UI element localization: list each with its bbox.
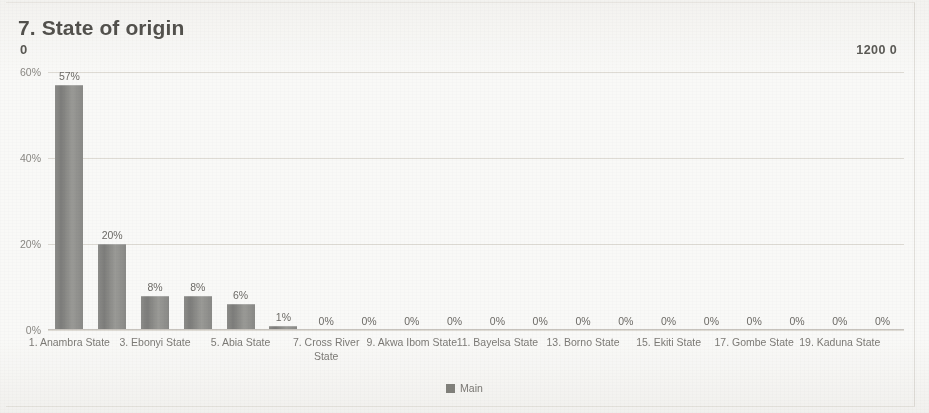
bar-value-label: 57% [59, 70, 80, 82]
plot-area: 0%20%40%60% 57%20%8%8%6%1%0%0%0%0%0%0%0%… [48, 72, 904, 330]
bar-chart: 7. State of origin 0 1200 0 0%20%40%60% … [0, 0, 929, 413]
bar-value-label: 0% [447, 315, 462, 327]
x-axis-tick-label: 17. Gombe State [708, 336, 800, 350]
bar-slot: 20% [91, 72, 134, 330]
bar-value-label: 0% [319, 315, 334, 327]
bar-slot: 0% [305, 72, 348, 330]
bar-value-label: 20% [102, 229, 123, 241]
bar-value-label: 8% [147, 281, 162, 293]
x-axis-tick-label: 13. Borno State [537, 336, 629, 350]
gridline [48, 330, 904, 331]
x-axis-tick-label: 5. Abia State [195, 336, 287, 350]
bar-slot: 57% [48, 72, 91, 330]
bar-slot: 0% [776, 72, 819, 330]
bar-value-label: 0% [533, 315, 548, 327]
bar-slot: 0% [348, 72, 391, 330]
bar-value-label: 0% [789, 315, 804, 327]
bar-value-label: 0% [361, 315, 376, 327]
bar[interactable] [141, 296, 169, 330]
bar-slot: 0% [433, 72, 476, 330]
bar-slot: 0% [604, 72, 647, 330]
bar-value-label: 0% [832, 315, 847, 327]
bar-slot: 0% [476, 72, 519, 330]
bar-slot: 0% [562, 72, 605, 330]
bar-value-label: 8% [190, 281, 205, 293]
chart-title: 7. State of origin [18, 16, 184, 40]
x-axis-tick-label: 11. Bayelsa State [451, 336, 543, 350]
y-axis-tick-label: 0% [26, 324, 41, 336]
legend-label: Main [460, 382, 483, 394]
bar-slot: 0% [861, 72, 904, 330]
bar-slot: 0% [818, 72, 861, 330]
x-axis-tick-label: 3. Ebonyi State [109, 336, 201, 350]
bar-value-label: 0% [575, 315, 590, 327]
x-axis-tick-label: 19. Kaduna State [794, 336, 886, 350]
bar-value-label: 0% [747, 315, 762, 327]
bar-value-label: 0% [704, 315, 719, 327]
bar-slot: 1% [262, 72, 305, 330]
bar[interactable] [184, 296, 212, 330]
x-axis-tick-label: 7. Cross River State [280, 336, 372, 363]
x-axis-tick-label: 15. Ekiti State [623, 336, 715, 350]
bar[interactable] [227, 304, 255, 330]
bar-value-label: 0% [490, 315, 505, 327]
x-axis-baseline [48, 329, 904, 330]
bar-slot: 8% [176, 72, 219, 330]
bar[interactable] [98, 244, 126, 330]
x-axis-tick-label: 1. Anambra State [23, 336, 115, 350]
bar-value-label: 1% [276, 311, 291, 323]
bar-value-label: 0% [404, 315, 419, 327]
x-axis-ticks: 1. Anambra State3. Ebonyi State5. Abia S… [48, 336, 904, 376]
bar[interactable] [55, 85, 83, 330]
x-axis-tick-label: 9. Akwa Ibom State [366, 336, 458, 350]
y-axis-tick-label: 60% [20, 66, 41, 78]
bar-slot: 0% [733, 72, 776, 330]
bar-value-label: 0% [875, 315, 890, 327]
bar-slot: 0% [390, 72, 433, 330]
legend-swatch-icon [446, 384, 455, 393]
bar-value-label: 0% [618, 315, 633, 327]
bar-slot: 0% [519, 72, 562, 330]
bar-value-label: 6% [233, 289, 248, 301]
y-axis-tick-label: 20% [20, 238, 41, 250]
chart-corner-value: 1200 0 [856, 43, 897, 57]
y-axis-tick-label: 40% [20, 152, 41, 164]
chart-title-subvalue: 0 [20, 42, 27, 57]
bar-slot: 8% [134, 72, 177, 330]
bar-value-label: 0% [661, 315, 676, 327]
bar-slot: 0% [690, 72, 733, 330]
bar-slot: 6% [219, 72, 262, 330]
chart-legend: Main [0, 382, 929, 394]
bar-slot: 0% [647, 72, 690, 330]
